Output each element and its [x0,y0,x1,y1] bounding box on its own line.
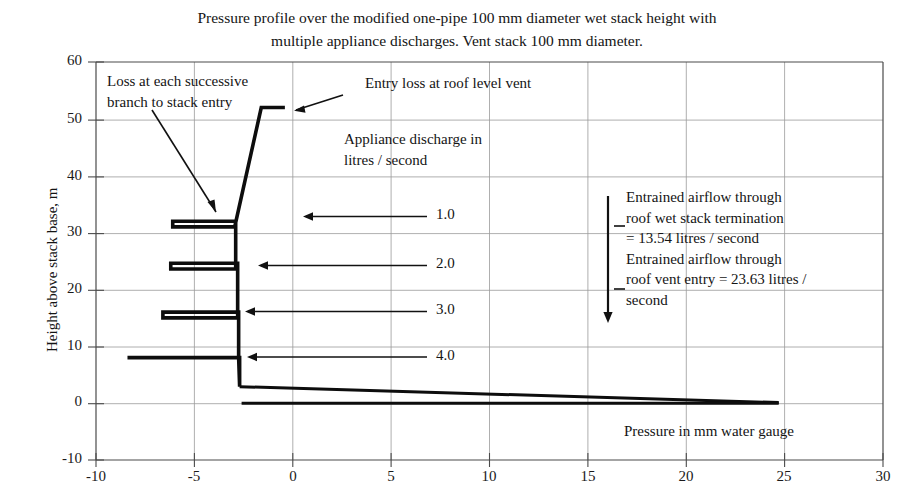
discharge-label-2: 2.0 [436,255,455,272]
data-series-base-upper [240,387,779,403]
annotation-entrained-line-1: Entrained airflow through [626,187,807,208]
discharge-arrow-4 [247,353,427,362]
y-tick-label-4: 30 [36,223,82,240]
annotation-appliance-discharge-line-1: Appliance discharge in [344,129,482,150]
y-tick-label-7: 60 [36,52,82,69]
y-tick-label-1: 0 [36,393,82,410]
annotation-leader-loss-branch [152,110,216,212]
data-series-stack-profile [127,107,284,386]
annotation-entrained-line-6: second [626,290,807,311]
y-tick-label-0: -10 [36,450,82,467]
y-tick-label-5: 40 [36,167,82,184]
annotation-entrained-airflow: Entrained airflow through roof wet stack… [626,187,807,310]
annotation-loss-branch-line-2: branch to stack entry [107,92,248,113]
x-axis-inline-label: Pressure in mm water gauge [624,421,794,442]
x-tick-label-6: 20 [668,468,704,485]
x-tick-label-4: 10 [471,468,507,485]
annotation-entry-loss: Entry loss at roof level vent [365,73,531,94]
discharge-arrow-1 [303,212,427,221]
y-tick-label-3: 20 [36,280,82,297]
discharge-label-1: 1.0 [436,206,455,223]
x-tick-label-8: 30 [865,468,901,485]
x-tick-label-0: -10 [78,468,114,485]
x-tick-label-3: 5 [373,468,409,485]
discharge-label-3: 3.0 [436,301,455,318]
y-tick-label-2: 10 [36,337,82,354]
annotation-appliance-discharge-line-2: litres / second [344,150,482,171]
annotation-entrained-line-5: roof vent entry = 23.63 litres / [626,269,807,290]
annotation-leader-entry-loss [294,95,343,113]
discharge-label-4: 4.0 [436,347,455,364]
annotation-loss-branch-line-1: Loss at each successive [107,71,248,92]
x-tick-label-7: 25 [766,468,802,485]
discharge-arrow-2 [258,261,427,270]
discharge-arrow-3 [245,307,427,316]
annotation-loss-branch: Loss at each successive branch to stack … [107,71,248,112]
annotation-entrained-line-4: Entrained airflow through [626,249,807,270]
annotation-entrained-line-3: = 13.54 litres / second [626,228,807,249]
figure-container: Pressure profile over the modified one-p… [0,0,914,495]
annotation-appliance-discharge: Appliance discharge in litres / second [344,129,482,170]
y-tick-label-6: 50 [36,110,82,127]
x-tick-label-2: 0 [275,468,311,485]
x-tick-label-5: 15 [570,468,606,485]
annotation-entrained-line-2: roof wet stack termination [626,208,807,229]
entrained-airflow-arrow [603,196,625,323]
x-tick-label-1: -5 [176,468,212,485]
